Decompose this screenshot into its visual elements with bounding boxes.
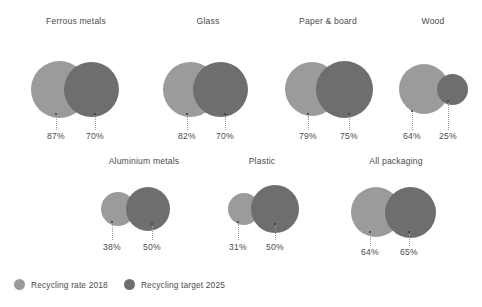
bubble-group: All packaging64%65% (334, 154, 460, 272)
circle-swatch-icon (14, 279, 25, 290)
value-label: 87% (47, 131, 65, 141)
leader-line (409, 234, 410, 246)
value-label: 64% (403, 131, 421, 141)
value-label: 38% (103, 242, 121, 252)
bubble-target-2025 (193, 62, 248, 117)
leader-line (152, 226, 153, 240)
group-title: All packaging (369, 156, 422, 166)
group-title: Aluminium metals (109, 156, 180, 166)
leader-line (56, 116, 57, 130)
group-title: Plastic (249, 156, 276, 166)
chart-legend: Recycling rate 2018Recycling target 2025 (14, 279, 225, 290)
bubble-target-2025 (437, 74, 468, 105)
legend-item: Recycling rate 2018 (14, 279, 108, 290)
bubble-target-2025 (126, 187, 170, 231)
value-label: 65% (400, 247, 418, 257)
leader-line (95, 116, 96, 130)
recycling-rates-bubble-chart: Ferrous metals87%70%Glass82%70%Paper & b… (0, 0, 482, 307)
group-title: Glass (197, 16, 220, 26)
value-label: 79% (299, 131, 317, 141)
leader-line (412, 113, 413, 130)
bubble-group: Plastic31%50% (212, 154, 322, 272)
leader-line (112, 224, 113, 240)
bubble-group: Paper & board79%75% (272, 14, 396, 140)
value-label: 64% (361, 247, 379, 257)
value-label: 75% (340, 131, 358, 141)
bubble-target-2025 (64, 62, 119, 117)
bubble-group: Ferrous metals87%70% (12, 14, 140, 140)
leader-line (308, 116, 309, 130)
leader-line (187, 116, 188, 130)
group-title: Ferrous metals (46, 16, 106, 26)
legend-label: Recycling target 2025 (141, 280, 225, 290)
bubble-target-2025 (385, 187, 436, 238)
leader-line (225, 116, 226, 130)
value-label: 70% (216, 131, 234, 141)
value-label: 50% (143, 242, 161, 252)
bubble-group: Aluminium metals38%50% (82, 154, 206, 272)
bubble-target-2025 (316, 61, 373, 118)
legend-label: Recycling rate 2018 (31, 280, 108, 290)
value-label: 82% (178, 131, 196, 141)
leader-line (275, 226, 276, 240)
bubble-group: Wood64%25% (390, 14, 482, 140)
legend-item: Recycling target 2025 (124, 279, 225, 290)
leader-line (349, 116, 350, 130)
value-label: 70% (86, 131, 104, 141)
value-label: 25% (439, 131, 457, 141)
value-label: 31% (229, 242, 247, 252)
leader-line (238, 224, 239, 240)
circle-swatch-icon (124, 279, 135, 290)
group-title: Wood (421, 16, 444, 26)
leader-line (448, 103, 449, 130)
leader-line (370, 234, 371, 246)
value-label: 50% (266, 242, 284, 252)
bubble-group: Glass82%70% (148, 14, 268, 140)
group-title: Paper & board (299, 16, 357, 26)
